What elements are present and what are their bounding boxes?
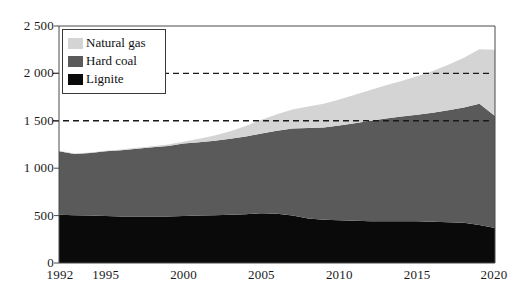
legend-item-hard-coal: Hard coal bbox=[68, 52, 159, 70]
x-axis: 1992199520002005201020152020 bbox=[0, 268, 516, 290]
legend-swatch-icon bbox=[68, 38, 83, 49]
y-axis: 2 5002 0001 5001 0005000 bbox=[0, 0, 54, 298]
legend: Natural gasHard coalLignite bbox=[62, 29, 166, 94]
xtick-label-2015: 2015 bbox=[404, 268, 431, 282]
ytick-label-2000: 2 000 bbox=[2, 66, 54, 79]
xtick-label-2020: 2020 bbox=[481, 268, 508, 282]
ytick-label-2500: 2 500 bbox=[2, 19, 54, 32]
legend-item-label: Hard coal bbox=[86, 54, 137, 68]
legend-swatch-icon bbox=[68, 74, 83, 85]
legend-item-label: Natural gas bbox=[86, 36, 146, 50]
tick-mark-layer bbox=[54, 26, 59, 263]
legend-item-lignite: Lignite bbox=[68, 70, 159, 88]
ytick-label-500: 500 bbox=[2, 209, 54, 222]
legend-swatch-icon bbox=[68, 56, 83, 67]
xtick-label-1995: 1995 bbox=[92, 268, 119, 282]
xtick-label-2000: 2000 bbox=[170, 268, 197, 282]
legend-item-natural-gas: Natural gas bbox=[68, 34, 159, 52]
ytick-label-1000: 1 000 bbox=[2, 161, 54, 174]
xtick-label-1992: 1992 bbox=[47, 268, 74, 282]
xtick-label-2010: 2010 bbox=[326, 268, 353, 282]
xtick-label-2005: 2005 bbox=[248, 268, 275, 282]
ytick-label-1500: 1 500 bbox=[2, 114, 54, 127]
legend-item-label: Lignite bbox=[86, 72, 124, 86]
stacked-area-chart: 2 5002 0001 5001 0005000 199219952000200… bbox=[0, 0, 516, 298]
